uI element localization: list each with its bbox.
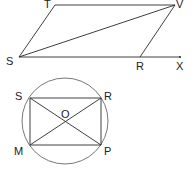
label-r2: R [104, 90, 112, 102]
label-s: S [6, 55, 13, 67]
side-vr [140, 5, 175, 57]
diagonal-sv [19, 5, 175, 57]
label-p: P [104, 145, 111, 157]
side-st [19, 5, 55, 57]
point-x [179, 56, 181, 58]
label-m: M [14, 145, 23, 157]
geometry-figure: T V S R X S R O M P [0, 0, 192, 181]
label-s2: S [15, 90, 22, 102]
label-o: O [61, 108, 70, 120]
label-t: T [44, 0, 51, 10]
inscribed-rectangle-figure: S R O M P [14, 78, 112, 164]
parallelogram-figure: T V S R X [6, 0, 184, 72]
label-v: V [176, 0, 184, 10]
label-r: R [136, 60, 144, 72]
label-x: X [176, 60, 184, 72]
